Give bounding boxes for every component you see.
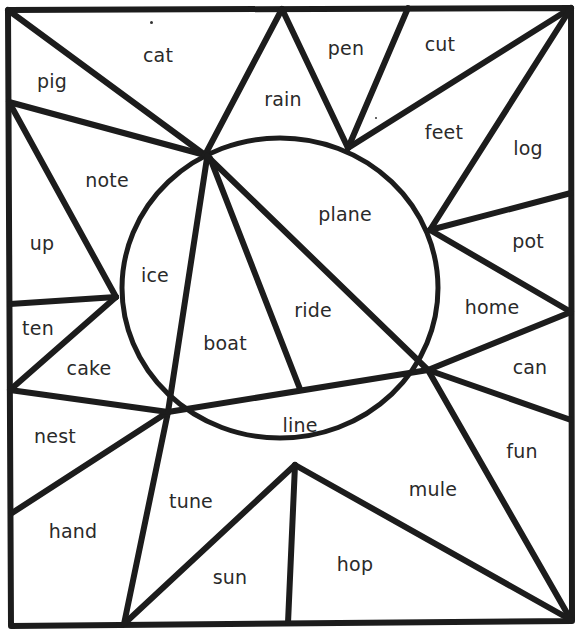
chord [168, 158, 207, 412]
region-feet[interactable]: feet [425, 121, 463, 143]
ray [288, 465, 295, 623]
region-rain[interactable]: rain [264, 88, 302, 110]
region-ride[interactable]: ride [294, 299, 332, 321]
ray [9, 102, 116, 297]
region-hop[interactable]: hop [337, 553, 373, 575]
scan-speck [150, 21, 153, 24]
ray [9, 102, 205, 155]
region-sun[interactable]: sun [213, 566, 248, 588]
region-can[interactable]: can [513, 356, 548, 378]
region-cut[interactable]: cut [425, 33, 456, 55]
region-cat[interactable]: cat [143, 44, 173, 66]
region-boat[interactable]: boat [203, 332, 247, 354]
region-line[interactable]: line [282, 414, 317, 436]
region-pig[interactable]: pig [37, 70, 67, 92]
region-cake[interactable]: cake [67, 357, 112, 379]
scan-speck [375, 117, 377, 119]
ray [205, 9, 282, 155]
region-plane[interactable]: plane [318, 203, 372, 225]
region-home[interactable]: home [465, 296, 520, 318]
ray [282, 9, 348, 148]
region-note[interactable]: note [85, 169, 129, 191]
region-hand[interactable]: hand [49, 520, 98, 542]
ray [10, 390, 168, 412]
region-ice[interactable]: ice [141, 264, 169, 286]
ray [10, 297, 116, 304]
region-mule[interactable]: mule [409, 478, 457, 500]
region-up[interactable]: up [30, 232, 55, 254]
region-pen[interactable]: pen [328, 37, 364, 59]
region-ten[interactable]: ten [22, 317, 54, 339]
region-nest[interactable]: nest [34, 425, 76, 447]
ray [428, 312, 571, 370]
chord [210, 158, 300, 389]
region-fun[interactable]: fun [506, 440, 537, 462]
region-pot[interactable]: pot [512, 230, 544, 252]
region-tune[interactable]: tune [169, 490, 213, 512]
region-log[interactable]: log [513, 137, 543, 159]
